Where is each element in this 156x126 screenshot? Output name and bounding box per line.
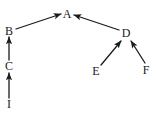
node-label-a: A	[60, 8, 74, 20]
node-label-d: D	[119, 27, 133, 39]
node-label-f: F	[139, 64, 153, 76]
edge-b-to-a	[16, 14, 61, 29]
node-label-e: E	[89, 65, 103, 77]
edge-e-to-d	[101, 41, 121, 65]
node-label-b: B	[2, 25, 16, 37]
edge-f-to-d	[131, 41, 145, 63]
edge-d-to-a	[74, 15, 119, 30]
node-label-c: C	[2, 60, 16, 72]
directed-graph-diagram: ABCIDEF	[0, 0, 156, 126]
graph-edges-canvas	[0, 0, 156, 126]
node-label-i: I	[2, 98, 16, 110]
